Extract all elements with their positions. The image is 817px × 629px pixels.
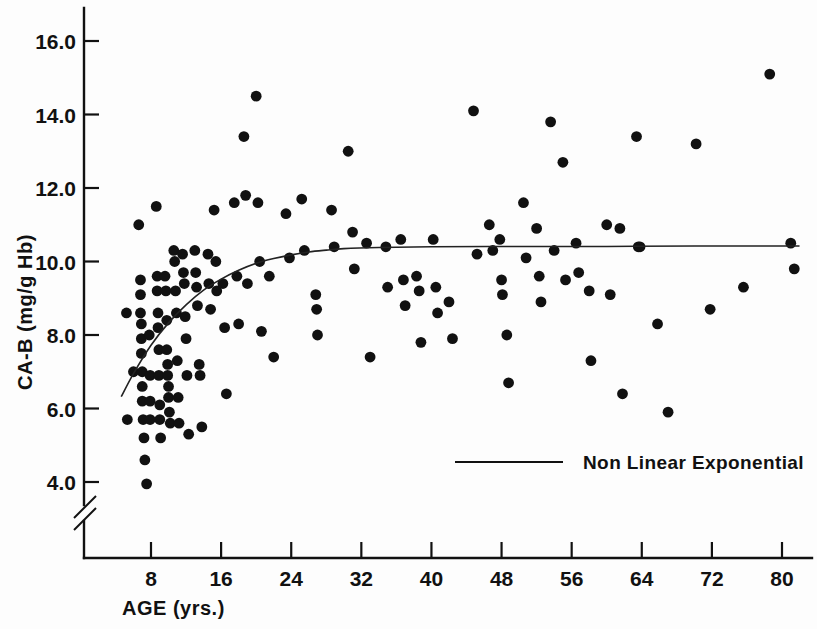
data-point — [468, 105, 479, 116]
data-point — [141, 478, 152, 489]
data-point — [122, 414, 133, 425]
data-point — [400, 300, 411, 311]
data-point — [496, 274, 507, 285]
data-point — [785, 238, 796, 249]
data-point — [531, 223, 542, 234]
data-point — [139, 455, 150, 466]
x-tick-label-80: 80 — [770, 567, 793, 590]
y-tick-label-10.0: 10.0 — [35, 251, 76, 274]
y-tick-label-4.0: 4.0 — [47, 471, 76, 494]
data-point — [494, 234, 505, 245]
data-point — [534, 271, 545, 282]
data-point — [614, 223, 625, 234]
data-point — [347, 227, 358, 238]
data-point — [177, 249, 188, 260]
data-point — [253, 197, 264, 208]
data-point — [705, 304, 716, 315]
data-point — [268, 352, 279, 363]
data-point — [161, 286, 172, 297]
chart-figure: 4.06.08.010.012.014.016.0 81624324048566… — [0, 0, 817, 629]
x-axis-ticks — [151, 542, 782, 558]
data-point — [179, 278, 190, 289]
data-point — [256, 326, 267, 337]
data-point — [472, 249, 483, 260]
data-point — [312, 330, 323, 341]
data-point — [133, 219, 144, 230]
data-point — [789, 263, 800, 274]
data-point — [310, 289, 321, 300]
data-point — [558, 157, 569, 168]
data-point — [617, 388, 628, 399]
scatter-plot-svg: 4.06.08.010.012.014.016.0 81624324048566… — [0, 0, 817, 629]
x-tick-label-72: 72 — [700, 567, 723, 590]
data-point — [536, 297, 547, 308]
data-point — [296, 194, 307, 205]
data-point — [191, 282, 202, 293]
legend: Non Linear Exponential — [455, 452, 804, 473]
data-point — [151, 201, 162, 212]
data-point — [173, 392, 184, 403]
legend-label-non-linear-exponential: Non Linear Exponential — [583, 452, 804, 473]
data-point — [203, 249, 214, 260]
data-point — [161, 344, 172, 355]
data-point — [503, 377, 514, 388]
data-point — [264, 271, 275, 282]
data-point — [497, 289, 508, 300]
data-point — [447, 333, 458, 344]
y-tick-label-16.0: 16.0 — [35, 30, 76, 53]
data-point — [163, 392, 174, 403]
data-point — [311, 304, 322, 315]
data-point — [605, 289, 616, 300]
y-axis-ticks — [84, 41, 99, 482]
data-point — [573, 267, 584, 278]
data-point — [299, 245, 310, 256]
data-point — [221, 388, 232, 399]
data-point — [444, 297, 455, 308]
data-point — [183, 429, 194, 440]
data-point — [329, 241, 340, 252]
data-point — [190, 267, 201, 278]
data-point — [691, 139, 702, 150]
data-point — [229, 197, 240, 208]
data-point — [484, 219, 495, 230]
x-tick-label-40: 40 — [420, 567, 443, 590]
data-point — [145, 414, 156, 425]
data-point — [137, 381, 148, 392]
data-point — [209, 205, 220, 216]
axis-lines — [84, 8, 812, 558]
data-point — [136, 319, 147, 330]
fit-curve-non-linear-exponential — [121, 246, 799, 397]
x-axis-title: AGE (yrs.) — [122, 597, 225, 619]
data-point — [219, 322, 230, 333]
x-tick-label-48: 48 — [490, 567, 514, 590]
data-point — [233, 319, 244, 330]
data-point — [170, 286, 181, 297]
data-point — [361, 238, 372, 249]
data-point — [162, 370, 173, 381]
data-point — [160, 271, 171, 282]
data-point — [153, 308, 164, 319]
data-point — [144, 330, 155, 341]
data-point — [586, 355, 597, 366]
data-point — [180, 311, 191, 322]
data-point — [411, 271, 422, 282]
data-point — [631, 131, 642, 142]
data-point — [174, 418, 185, 429]
data-point — [414, 286, 425, 297]
data-point — [416, 337, 427, 348]
data-point — [135, 289, 146, 300]
data-point — [192, 300, 203, 311]
x-tick-label-8: 8 — [145, 567, 157, 590]
data-point — [182, 370, 193, 381]
y-tick-label-12.0: 12.0 — [35, 177, 76, 200]
data-point — [178, 267, 189, 278]
data-point — [343, 146, 354, 157]
data-point — [240, 190, 251, 201]
data-point — [155, 433, 166, 444]
x-axis-tick-labels: 8162432404856647280 — [145, 567, 794, 590]
data-point — [584, 286, 595, 297]
y-tick-label-14.0: 14.0 — [35, 104, 76, 127]
x-tick-label-64: 64 — [630, 567, 654, 590]
data-point — [518, 197, 529, 208]
data-point — [121, 308, 132, 319]
